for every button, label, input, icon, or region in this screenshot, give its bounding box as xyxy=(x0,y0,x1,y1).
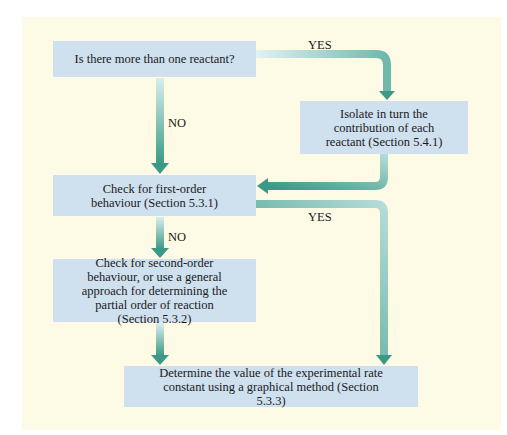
arrow-no-to-first-order xyxy=(151,78,169,174)
box-first-order: Check for first-order behaviour (Section… xyxy=(53,175,256,216)
box-determine-rate-constant: Determine the value of the experimental … xyxy=(124,366,418,407)
arrow-yes-to-isolate xyxy=(256,54,395,100)
label-yes-more-reactants: YES xyxy=(308,38,332,53)
box-second-order: Check for second-order behaviour, or use… xyxy=(53,259,256,322)
arrow-second-to-determine xyxy=(151,323,169,365)
label-no-single-reactant: NO xyxy=(168,116,186,131)
label-no-first-order: NO xyxy=(168,230,186,245)
box-isolate-contribution: Isolate in turn the contribution of each… xyxy=(300,101,468,154)
arrow-yes-to-determine xyxy=(256,204,392,365)
arrow-no-to-second-order xyxy=(151,217,169,258)
label-yes-first-order: YES xyxy=(308,210,332,225)
box-more-than-one-reactant: Is there more than one reactant? xyxy=(53,41,256,77)
arrow-isolate-to-first-order xyxy=(257,154,384,194)
